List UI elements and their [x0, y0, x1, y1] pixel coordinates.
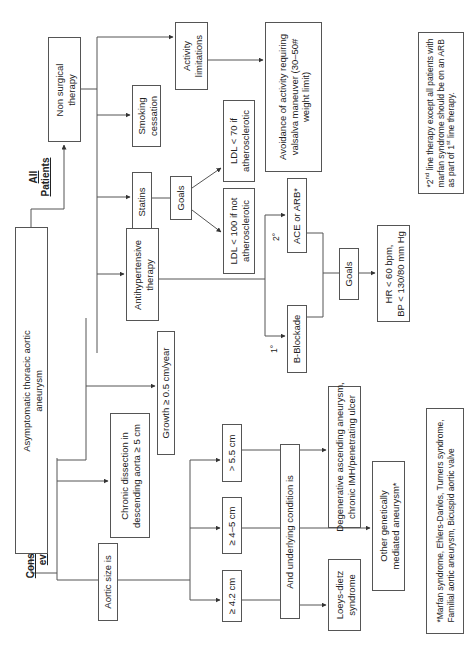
antihypertensive-line2: therapy — [143, 239, 155, 309]
root-line2: aneurysm — [32, 330, 44, 451]
avoidance-line1: Avoidance of activity requiring — [276, 34, 288, 160]
bp-goals-label: Goals — [343, 262, 355, 287]
root-line1: Asymptomatic thoracic aortic — [20, 330, 32, 451]
statins-goals-box: Goals — [170, 176, 192, 220]
beta-blockade-box: B-Blockade — [287, 305, 307, 373]
degenerative-line2: chronic IMH/penetrating ulcer — [345, 382, 357, 531]
loeys-dietz-box: Loeys-dietz syndrome — [328, 559, 361, 631]
smoking-line2: cessation — [147, 96, 159, 136]
other-genetic-line2: mediated aneurysm* — [389, 482, 401, 569]
other-genetic-line1: Other genetically — [377, 482, 389, 569]
aortic-size-label: Aortic size is — [102, 555, 114, 608]
chronic-dissection-box: Chronic dissection in descending aorta ≥… — [110, 413, 150, 538]
ace-arb-box: ACE or ARB* — [287, 178, 307, 253]
second-line-footnote: *2nd line therapy except all patients wi… — [418, 32, 464, 194]
loeys-line2: syndrome — [345, 571, 357, 620]
antihypertensive-therapy-box: Antihypertensive therapy — [126, 228, 159, 321]
size-gt-5-5-label: > 5.5 cm — [226, 435, 238, 472]
degenerative-line1: Degenerative ascending aneurysm, — [333, 382, 345, 531]
antihypertensive-line1: Antihypertensive — [131, 239, 143, 309]
ldl70-line1: LDL < 70 if — [228, 110, 240, 172]
other-genetic-box: Other genetically mediated aneurysm* — [372, 461, 405, 591]
smoking-line1: Smoking — [135, 96, 147, 136]
chronic-dissection-line1: Chronic dissection in — [119, 424, 131, 528]
root-asymptomatic-aneurysm: Asymptomatic thoracic aortic aneurysm — [15, 227, 48, 554]
all-patients-label: All Patients — [25, 152, 55, 202]
bp-goal: BP < 130/80 mm Hg — [394, 231, 406, 317]
underlying-condition-label: And underlying condition is — [284, 475, 296, 589]
first-line-marker: 1° — [268, 342, 280, 356]
underlying-condition-box: And underlying condition is — [280, 444, 300, 619]
hr-bp-goals-box: HR < 60 bpm, BP < 130/80 mm Hg — [377, 225, 410, 322]
ldl70-line2: atherosclerotic — [239, 110, 251, 172]
beta-blockade-label: B-Blockade — [291, 315, 303, 364]
non-surgical-line2: therapy — [65, 63, 77, 116]
genetic-footnote: *Marfan syndrome, Ehlers-Danlos, Turners… — [426, 408, 464, 634]
ldl100-line2: atherosclerotic — [239, 198, 251, 265]
avoidance-line2: valsalva maneuver (30–50# — [288, 34, 300, 160]
second-line-marker: 2° — [270, 230, 282, 244]
first-line-marker-label: 1° — [269, 345, 280, 353]
ldl-100-box: LDL < 100 if not atherosclerotic — [223, 188, 255, 274]
statins-goals-label: Goals — [175, 186, 187, 211]
size-4-5-box: ≥ 4–5 cm — [222, 497, 242, 554]
loeys-line1: Loeys-dietz — [333, 571, 345, 620]
size-4-2-label: ≥ 4.2 cm — [226, 578, 238, 614]
hr-goal: HR < 60 bpm, — [382, 231, 394, 317]
activity-line1: Activity — [180, 35, 192, 77]
genetic-footnote-line2: Familial aortic aneurysm, Bicuspid aorti… — [445, 419, 456, 622]
second-line-marker-label: 2° — [271, 233, 282, 241]
ace-arb-label: ACE or ARB* — [291, 188, 303, 244]
aortic-size-box: Aortic size is — [98, 543, 118, 621]
smoking-cessation-box: Smoking cessation — [132, 85, 161, 147]
size-4-2-box: ≥ 4.2 cm — [222, 570, 242, 622]
non-surgical-line1: Non surgical — [53, 63, 65, 116]
statins-label: Statins — [136, 187, 148, 216]
growth-label: Growth ≥ 0.5 cm/year — [160, 348, 172, 439]
avoidance-line3: weight limit) — [299, 34, 311, 160]
ldl100-line1: LDL < 100 if not — [228, 198, 240, 265]
avoidance-activity-box: Avoidance of activity requiring valsalva… — [265, 22, 322, 172]
all-patients-label-line1: All — [28, 158, 40, 197]
activity-limitations-box: Activity limitations — [175, 22, 208, 90]
degenerative-box: Degenerative ascending aneurysm, chronic… — [328, 386, 361, 528]
statins-box: Statins — [132, 172, 152, 232]
non-surgical-therapy-box: Non surgical therapy — [48, 37, 81, 142]
size-gt-5-5-box: > 5.5 cm — [222, 424, 242, 482]
chronic-dissection-line2: descending aorta ≥ 5 cm — [130, 424, 142, 528]
footnote-line3: as part of 1st line therapy. — [446, 39, 457, 188]
activity-line2: limitations — [192, 35, 204, 77]
size-4-5-label: ≥ 4–5 cm — [226, 506, 238, 545]
bp-goals-box: Goals — [339, 248, 359, 300]
growth-box: Growth ≥ 0.5 cm/year — [157, 331, 175, 455]
genetic-footnote-line1: *Marfan syndrome, Ehlers-Danlos, Turners… — [435, 419, 446, 622]
footnote-line2: marfan syndrome should be on an ARB — [436, 39, 447, 188]
ldl-70-box: LDL < 70 if atherosclerotic — [223, 100, 255, 182]
all-patients-label-line2: Patients — [40, 158, 52, 197]
footnote-line1: *2nd line therapy except all patients wi… — [425, 39, 436, 188]
